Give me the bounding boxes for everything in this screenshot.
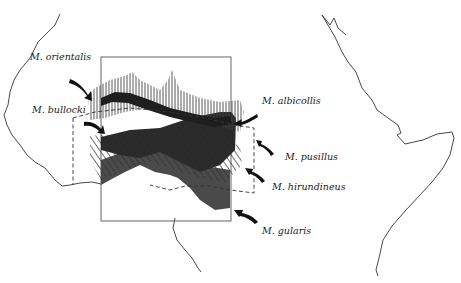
label-albicollis: M. albicollis	[262, 95, 321, 106]
arrow-pusillus-icon	[256, 140, 274, 156]
distribution-map	[0, 0, 461, 283]
arrow-hirundineus-icon	[245, 168, 265, 183]
label-hirundineus: M. hirundineus	[272, 181, 346, 192]
label-gularis: M. gularis	[262, 225, 311, 236]
label-pusillus: M. pusillus	[285, 151, 338, 162]
east-africa-coastline	[322, 15, 454, 276]
label-orientalis: M. orientalis	[30, 51, 91, 62]
arrow-bullocki-icon	[84, 122, 105, 134]
label-bullocki: M. bullocki	[32, 104, 86, 115]
arrow-gularis-icon	[234, 210, 258, 224]
central-africa-coastline	[173, 218, 201, 272]
west-africa-coastline	[4, 14, 101, 186]
arrow-orientalis-icon	[69, 79, 92, 101]
